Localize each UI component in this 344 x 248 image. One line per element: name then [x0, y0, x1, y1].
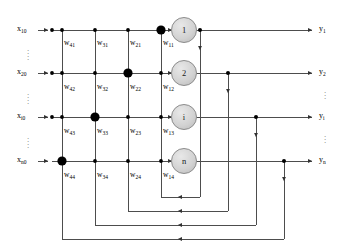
weight-sub: 24	[135, 174, 141, 180]
input-label-xi: xi0	[17, 112, 25, 120]
weight-label-w42: w42	[64, 83, 75, 91]
output-sub-y1: 1	[323, 28, 326, 34]
weight-sub: 14	[168, 174, 174, 180]
weight-label-w12: w12	[163, 83, 174, 91]
input-sub-x1: 10	[21, 28, 27, 34]
weight-label-w32: w32	[97, 83, 108, 91]
weight-label-w21: w21	[130, 39, 141, 47]
input-sub-x2: 20	[21, 71, 27, 77]
active-weight-node	[57, 156, 66, 165]
weight-sub: 31	[102, 42, 108, 48]
network-diagram	[0, 0, 344, 248]
weight-bus-lines	[62, 30, 161, 239]
input-ellipsis-1: ....	[25, 48, 31, 60]
weight-sub: 23	[135, 130, 141, 136]
output-sub-y2: 2	[323, 71, 326, 77]
weight-label-w13: w13	[163, 127, 174, 135]
figure-canvas: x10 x20 xi0 xn0 .... .... .... w41 w31 w…	[0, 0, 344, 248]
weight-label-w43: w43	[64, 127, 75, 135]
neuron-label-i: i	[174, 113, 194, 122]
weight-sub: 32	[102, 86, 108, 92]
weight-label-w23: w23	[130, 127, 141, 135]
active-weight-node	[90, 112, 99, 121]
feedback-drop-arrowheads	[200, 38, 284, 181]
neuron-circles	[172, 18, 197, 174]
weight-sub: 21	[135, 42, 141, 48]
weight-sub: 43	[69, 130, 75, 136]
weight-label-w31: w31	[97, 39, 108, 47]
input-label-x1: x10	[17, 25, 27, 33]
weight-label-w24: w24	[130, 171, 141, 179]
feedback-drop-lines	[200, 30, 284, 239]
feedback-tap	[282, 159, 286, 163]
weight-sub: 13	[168, 130, 174, 136]
weight-label-w41: w41	[64, 39, 75, 47]
weight-sub: 42	[69, 86, 75, 92]
output-sub-yi: i	[323, 115, 325, 121]
output-label-y1: y1	[319, 25, 326, 33]
weight-label-w33: w33	[97, 127, 108, 135]
output-sub-yn: n	[323, 159, 326, 165]
weight-sub: 22	[135, 86, 141, 92]
output-label-yn: yn	[319, 156, 326, 164]
input-row-lines	[38, 30, 172, 161]
output-ellipsis-1: ...	[322, 90, 328, 99]
input-label-x2: x20	[17, 68, 27, 76]
active-weight-node	[156, 25, 165, 34]
weight-sub: 34	[102, 174, 108, 180]
weight-sub: 44	[69, 174, 75, 180]
weight-label-w11: w11	[163, 39, 174, 47]
output-ellipsis-2: ...	[322, 134, 328, 143]
weight-sub: 11	[168, 42, 173, 48]
weight-sub: 12	[168, 86, 174, 92]
weight-label-w14: w14	[163, 171, 174, 179]
input-label-xn: xn0	[17, 156, 27, 164]
feedback-tap	[254, 115, 258, 119]
weight-sub: 33	[102, 130, 108, 136]
weight-label-w44: w44	[64, 171, 75, 179]
neuron-label-1: 1	[174, 26, 194, 35]
input-ellipsis-2: ....	[25, 92, 31, 104]
neuron-label-n: n	[174, 157, 194, 166]
output-label-yi: yi	[319, 112, 325, 120]
weight-label-w34: w34	[97, 171, 108, 179]
feedback-tap	[226, 71, 230, 75]
output-label-y2: y2	[319, 68, 326, 76]
weight-label-w22: w22	[130, 83, 141, 91]
output-lines	[196, 30, 312, 161]
neuron-label-2: 2	[174, 69, 194, 78]
input-sub-xn: n0	[21, 159, 27, 165]
input-ellipsis-3: ....	[25, 136, 31, 148]
weight-sub: 41	[69, 42, 75, 48]
feedback-tap	[198, 28, 202, 32]
input-sub-xi: i0	[21, 115, 25, 121]
active-weight-node	[123, 68, 132, 77]
